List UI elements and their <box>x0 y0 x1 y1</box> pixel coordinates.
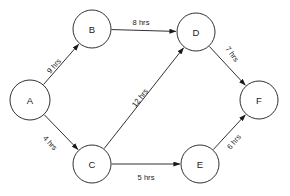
edge-label-a-c: 4 hrs <box>41 134 59 153</box>
node-e[interactable]: E <box>181 145 219 183</box>
graph-canvas: 9 hrs4 hrs8 hrs12 hrs5 hrs7 hrs6 hrs ABC… <box>0 0 290 196</box>
edge-label-c-d: 12 hrs <box>130 87 150 109</box>
edge-label-e-f: 6 hrs <box>225 132 243 151</box>
node-label-b: B <box>89 24 95 35</box>
network-diagram: 9 hrs4 hrs8 hrs12 hrs5 hrs7 hrs6 hrs ABC… <box>0 0 290 196</box>
node-b[interactable]: B <box>73 10 111 48</box>
edge-label-d-f: 7 hrs <box>223 45 240 64</box>
edge-b-to-d <box>112 30 176 32</box>
edge-label-a-b: 9 hrs <box>45 57 63 76</box>
node-c[interactable]: C <box>73 145 111 183</box>
edge-label-c-e: 5 hrs <box>138 173 155 182</box>
node-label-a: A <box>27 95 34 106</box>
node-label-c: C <box>89 159 96 170</box>
node-label-d: D <box>193 27 200 38</box>
node-d[interactable]: D <box>177 13 215 51</box>
node-f[interactable]: F <box>240 81 278 119</box>
node-label-f: F <box>256 95 262 106</box>
node-a[interactable]: A <box>10 80 50 120</box>
node-label-e: E <box>197 159 203 170</box>
edge-label-b-d: 8 hrs <box>133 18 150 27</box>
